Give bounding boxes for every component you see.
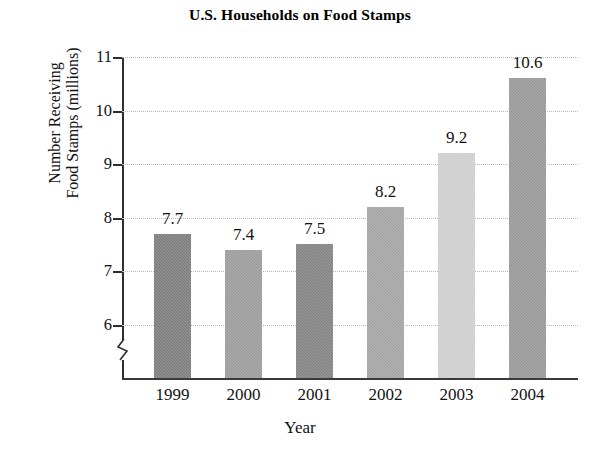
- y-axis-title-line-2: Food Stamps (millions): [64, 47, 82, 198]
- bar: [296, 244, 333, 378]
- bar: [367, 207, 404, 378]
- axis-break-icon: [115, 338, 131, 362]
- chart-figure: U.S. Households on Food Stamps Number Re…: [0, 0, 600, 451]
- bar-value-label: 10.6: [493, 54, 563, 71]
- y-axis-tick-label: 9: [68, 156, 112, 173]
- bar-value-label: 7.7: [138, 210, 208, 227]
- x-axis-title: Year: [0, 418, 600, 438]
- bar: [154, 234, 191, 378]
- x-axis-category-label: 2000: [204, 386, 284, 403]
- y-axis-tick: [113, 111, 122, 113]
- y-axis-spine-upper: [122, 57, 124, 340]
- y-axis-spine-lower: [122, 360, 124, 378]
- bar-value-label: 7.5: [280, 220, 350, 237]
- y-axis-tick-label: 6: [68, 317, 112, 334]
- x-axis-category-label: 1999: [133, 386, 213, 403]
- y-axis-tick: [113, 218, 122, 220]
- y-axis-tick: [113, 325, 122, 327]
- x-axis-category-label: 2003: [417, 386, 497, 403]
- bar: [225, 250, 262, 378]
- y-axis-tick-label: 8: [68, 210, 112, 227]
- y-axis-tick: [113, 164, 122, 166]
- chart-title: U.S. Households on Food Stamps: [0, 6, 600, 24]
- bar: [438, 153, 475, 378]
- y-axis-tick: [113, 271, 122, 273]
- x-axis-category-label: 2001: [275, 386, 355, 403]
- y-axis-tick-label: 10: [68, 103, 112, 120]
- y-axis-title-line-1: Number Receiving: [46, 62, 64, 183]
- bar-value-label: 7.4: [209, 226, 279, 243]
- x-axis-spine: [122, 378, 578, 380]
- bar: [509, 78, 546, 378]
- x-axis-category-label: 2002: [346, 386, 426, 403]
- y-axis-tick-label: 7: [68, 263, 112, 280]
- x-axis-category-label: 2004: [488, 386, 568, 403]
- bar-value-label: 9.2: [422, 129, 492, 146]
- y-axis-tick: [113, 57, 122, 59]
- bar-value-label: 8.2: [351, 183, 421, 200]
- y-axis-tick-label: 11: [68, 49, 112, 66]
